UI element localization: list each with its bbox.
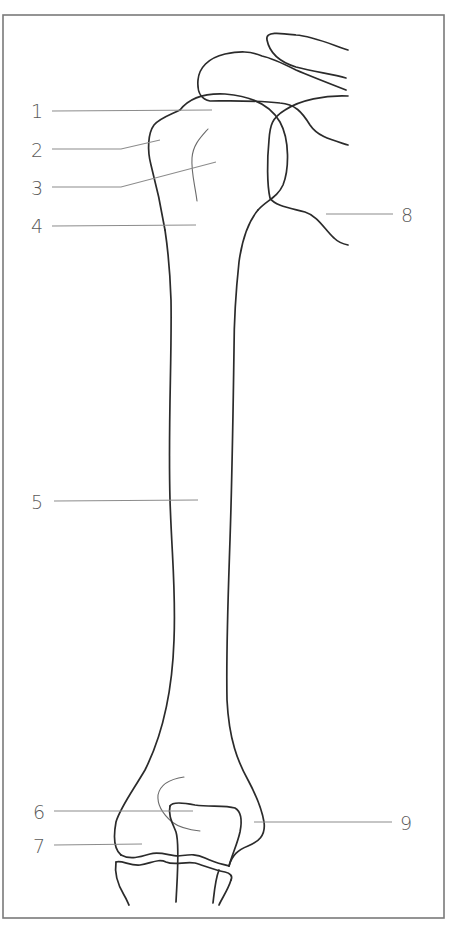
- leader-7: [54, 844, 142, 845]
- leader-5: [54, 500, 198, 501]
- label-4: 4: [31, 215, 43, 237]
- leader-3: [52, 162, 216, 187]
- label-2: 2: [31, 139, 43, 161]
- humerus-diagram: 1 2 3 4 5 6 7 8 9: [0, 0, 451, 935]
- label-3: 3: [31, 177, 43, 199]
- label-6: 6: [33, 801, 45, 823]
- label-9: 9: [400, 812, 412, 834]
- humeral-head: [149, 94, 288, 230]
- leader-2: [52, 140, 160, 149]
- figure-frame: [3, 15, 444, 918]
- label-7: 7: [33, 835, 45, 857]
- label-8: 8: [401, 204, 413, 226]
- scapula-glenoid: [268, 96, 348, 245]
- leader-4: [52, 225, 196, 226]
- humerus-shaft: [115, 210, 265, 866]
- leader-1: [52, 110, 212, 111]
- leader-lines: [52, 110, 393, 845]
- label-5: 5: [31, 491, 43, 513]
- elbow-joint: [115, 777, 241, 905]
- scapula-acromion: [198, 33, 348, 145]
- label-1: 1: [31, 100, 43, 122]
